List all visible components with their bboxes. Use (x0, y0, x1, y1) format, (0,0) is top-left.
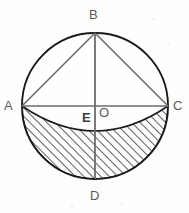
scan-speck (70, 205, 74, 207)
point-label-o: O (99, 106, 109, 119)
scan-speck (121, 203, 124, 205)
point-label-d: D (90, 189, 100, 202)
chord-bc-line (95, 33, 168, 106)
chord-ba-line (22, 33, 95, 106)
geometry-figure: A B C D E O (0, 0, 189, 213)
point-label-a: A (4, 99, 13, 112)
point-label-c: C (173, 99, 183, 112)
point-label-e: E (82, 111, 91, 124)
scan-speck (152, 18, 155, 20)
circle-geometry-diagram (0, 0, 189, 213)
point-label-b: B (89, 8, 98, 21)
scan-speck (168, 44, 170, 46)
